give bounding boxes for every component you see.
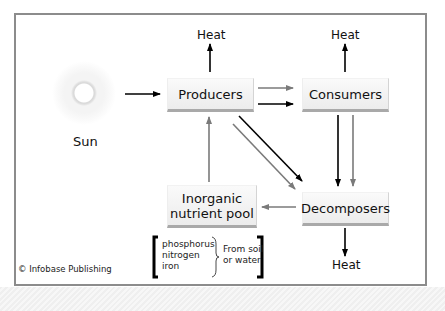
producers-node: Producers (167, 78, 254, 112)
nutrient-item: iron (162, 261, 215, 272)
nutrient-source: From soil or water (223, 244, 263, 266)
inorganic-nutrient-pool-node: Inorganic nutrient pool (167, 185, 257, 228)
nutrient-source-line1: From soil (223, 244, 263, 255)
copyright-notice: © Infobase Publishing (18, 264, 112, 274)
consumers-heat-label: Heat (331, 28, 359, 42)
nutrient-list: phosphorus nitrogen iron (162, 239, 215, 272)
decomposers-heat-label: Heat (332, 258, 360, 272)
consumers-label: Consumers (309, 87, 382, 102)
inorganic-pool-label-line2: nutrient pool (170, 206, 254, 221)
producers-heat-label: Heat (197, 28, 225, 42)
nutrient-item: phosphorus (162, 239, 215, 250)
inorganic-pool-label-line1: Inorganic (182, 191, 242, 206)
decomposers-node: Decomposers (302, 192, 389, 226)
nutrient-source-line2: or water (223, 255, 263, 266)
decomposers-label: Decomposers (301, 201, 390, 216)
producers-label: Producers (178, 87, 242, 102)
nutrient-item: nitrogen (162, 250, 215, 261)
consumers-node: Consumers (302, 78, 389, 112)
